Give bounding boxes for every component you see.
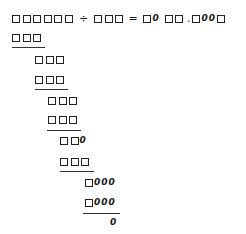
blank-digit-box bbox=[23, 15, 31, 23]
division-sign: ÷ bbox=[79, 13, 88, 24]
blank-digit-box bbox=[33, 15, 41, 23]
blank-digit-box bbox=[85, 199, 93, 207]
blank-digit-box bbox=[12, 34, 20, 42]
blank-digit-box bbox=[56, 56, 64, 64]
working-row-6: 0 bbox=[60, 135, 87, 146]
blank-digit-box bbox=[46, 76, 54, 84]
blank-digit-box bbox=[60, 137, 68, 145]
digit-zero: 0 bbox=[109, 198, 115, 207]
quotient: 0 . 0 0 bbox=[143, 13, 225, 24]
division-equation: ÷ = 0 . 0 0 bbox=[12, 13, 225, 24]
blank-digit-box bbox=[46, 56, 54, 64]
blank-digit-box bbox=[48, 97, 56, 105]
blank-digit-box bbox=[65, 15, 73, 23]
subtraction-line bbox=[12, 47, 45, 48]
working-row-1 bbox=[12, 32, 41, 43]
blank-digit-box bbox=[85, 179, 93, 187]
digit-zero: 0 bbox=[101, 198, 107, 207]
blank-digit-box bbox=[105, 15, 113, 23]
divisor bbox=[94, 15, 123, 23]
final-remainder: 0 bbox=[110, 218, 116, 227]
working-row-9: 0 0 0 bbox=[85, 197, 116, 208]
subtraction-line bbox=[83, 213, 120, 214]
blank-digit-box bbox=[35, 56, 43, 64]
blank-digit-box bbox=[56, 76, 64, 84]
subtraction-line bbox=[35, 89, 68, 90]
equals-sign: = bbox=[128, 13, 137, 24]
digit-zero: 0 bbox=[101, 178, 107, 187]
final-remainder-row: 0 bbox=[110, 217, 117, 228]
digit-zero: 0 bbox=[209, 14, 215, 23]
dividend bbox=[12, 15, 73, 23]
digit-zero: 0 bbox=[153, 14, 159, 23]
blank-digit-box bbox=[54, 15, 62, 23]
working-row-5 bbox=[48, 114, 77, 125]
digit-zero: 0 bbox=[80, 136, 86, 145]
blank-digit-box bbox=[59, 97, 67, 105]
working-row-8: 0 0 0 bbox=[85, 177, 116, 188]
blank-digit-box bbox=[81, 158, 89, 166]
digit-zero: 0 bbox=[94, 178, 100, 187]
working-row-4 bbox=[48, 95, 77, 106]
working-row-7 bbox=[60, 156, 89, 167]
blank-digit-box bbox=[71, 158, 79, 166]
blank-digit-box bbox=[94, 15, 102, 23]
subtraction-line bbox=[47, 130, 81, 131]
digit-zero: 0 bbox=[202, 14, 208, 23]
blank-digit-box bbox=[12, 15, 20, 23]
blank-digit-box bbox=[69, 116, 77, 124]
decimal-point: . bbox=[187, 13, 191, 24]
blank-digit-box bbox=[44, 15, 52, 23]
blank-digit-box bbox=[143, 15, 151, 23]
digit-zero: 0 bbox=[94, 198, 100, 207]
blank-digit-box bbox=[59, 116, 67, 124]
working-row-2 bbox=[35, 54, 64, 65]
subtraction-line bbox=[60, 171, 94, 172]
blank-digit-box bbox=[192, 15, 200, 23]
blank-digit-box bbox=[115, 15, 123, 23]
digit-zero: 0 bbox=[109, 178, 115, 187]
blank-digit-box bbox=[165, 15, 173, 23]
blank-digit-box bbox=[217, 15, 225, 23]
blank-digit-box bbox=[35, 76, 43, 84]
working-row-3 bbox=[35, 74, 64, 85]
blank-digit-box bbox=[71, 137, 79, 145]
blank-digit-box bbox=[33, 34, 41, 42]
blank-digit-box bbox=[48, 116, 56, 124]
blank-digit-box bbox=[23, 34, 31, 42]
blank-digit-box bbox=[60, 158, 68, 166]
blank-digit-box bbox=[69, 97, 77, 105]
blank-digit-box bbox=[175, 15, 183, 23]
